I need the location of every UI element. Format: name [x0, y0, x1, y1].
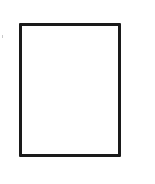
empty-rectangle-frame [19, 23, 121, 157]
tick-mark [2, 35, 3, 38]
